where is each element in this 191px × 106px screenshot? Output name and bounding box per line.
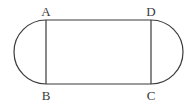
- diagram-canvas: A B C D: [0, 0, 191, 106]
- right-semicircle: [151, 20, 183, 84]
- label-c: C: [147, 88, 156, 103]
- label-d: D: [146, 4, 155, 19]
- label-b: B: [42, 88, 51, 103]
- left-semicircle: [14, 20, 46, 84]
- geometry-diagram: A B C D: [0, 0, 191, 106]
- label-a: A: [41, 4, 51, 19]
